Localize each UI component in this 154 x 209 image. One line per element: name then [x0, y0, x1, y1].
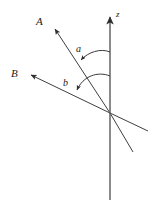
vector-diagram-figure: A B z a b — [0, 0, 154, 209]
angle-b-label: b — [63, 78, 68, 88]
angle-a-label: a — [76, 44, 81, 54]
vector-b-label: B — [11, 68, 18, 79]
angle-a-arc — [81, 50, 110, 60]
vector-a-arrow — [55, 29, 110, 113]
z-axis-label: z — [116, 10, 120, 19]
vector-a-label: A — [36, 16, 43, 27]
diagram-canvas — [0, 0, 154, 209]
